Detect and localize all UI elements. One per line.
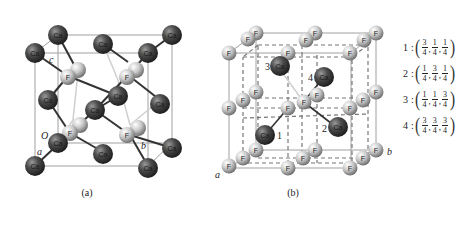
svg-text:F: F [361, 155, 365, 162]
svg-text:Ca: Ca [168, 32, 177, 39]
svg-text:Ca: Ca [54, 32, 63, 39]
svg-text:Ca: Ca [144, 50, 153, 57]
svg-text:F: F [302, 99, 306, 106]
svg-text:Ca: Ca [99, 151, 108, 158]
svg-text:Ca: Ca [91, 107, 100, 114]
f-atom: F [343, 46, 358, 61]
svg-text:Ca: Ca [44, 97, 53, 104]
frac-y: 34 [432, 64, 438, 83]
frac-z: 34 [442, 90, 448, 109]
svg-text:F: F [254, 147, 258, 154]
svg-text:F: F [286, 165, 290, 172]
frac-y: 14 [432, 90, 438, 109]
svg-text:F: F [241, 97, 245, 104]
svg-text:F: F [374, 147, 378, 154]
svg-text:F: F [66, 74, 70, 81]
svg-text:F: F [68, 130, 72, 137]
frac-z: 14 [442, 64, 448, 83]
coord-index: 3 [394, 94, 408, 105]
caption-b: (b) [287, 187, 299, 199]
f-atom: F [356, 93, 371, 108]
f-atom: F [236, 151, 251, 166]
svg-text:F: F [125, 132, 129, 139]
f-atom: F [297, 95, 312, 110]
f-atom: F [281, 101, 296, 116]
coord-sep: : [411, 42, 414, 53]
svg-text:Ca: Ca [156, 101, 165, 108]
coordinate-row-4: 4 : ( 34 , 34 , 34 ) [394, 112, 470, 138]
coordinates-legend: 1 : ( 34 , 14 , 14 ) 2 : ( 14 , 34 , 14 … [394, 34, 470, 138]
panel-b: F F F F F F F F F F F F F F F F F F F F … [215, 26, 392, 200]
ca-atom-1: Ca [255, 125, 275, 145]
ca-index-1: 1 [277, 130, 282, 141]
f-atom: F [356, 151, 371, 166]
ca-atom: Ca [25, 156, 45, 176]
svg-text:Ca: Ca [54, 140, 63, 147]
ca-index-4: 4 [308, 72, 313, 83]
svg-text:F: F [313, 147, 317, 154]
f-atom: F [310, 88, 325, 103]
ca-atom-3: Ca [270, 56, 290, 76]
ca-atom: Ca [25, 43, 45, 63]
f-atom: F [343, 101, 358, 116]
svg-text:F: F [227, 163, 231, 170]
svg-text:Ca: Ca [168, 145, 177, 152]
coordinate-row-3: 3 : ( 14 , 14 , 34 ) [394, 86, 470, 112]
svg-text:F: F [348, 165, 352, 172]
svg-text:F: F [286, 105, 290, 112]
ca-atom: Ca [138, 43, 158, 63]
svg-text:F: F [374, 30, 378, 37]
f-atom: F [299, 33, 314, 48]
ca-atom: Ca [85, 100, 105, 120]
coordinate-row-2: 2 : ( 14 , 34 , 14 ) [394, 60, 470, 86]
f-atom: F [343, 161, 358, 176]
f-atom: F [296, 151, 311, 166]
frac-y: 14 [432, 38, 438, 57]
ca-atom: Ca [93, 144, 113, 164]
svg-text:Ca: Ca [144, 165, 153, 172]
panel-a: Ca Ca Ca Ca Ca Ca Ca Ca F F F F Ca Ca Ca… [25, 25, 182, 199]
axis-label-a: a [37, 146, 42, 157]
svg-text:Ca: Ca [31, 50, 40, 57]
f-atom: F [249, 85, 264, 100]
svg-text:F: F [301, 155, 305, 162]
ca-atom-4: Ca [314, 67, 334, 87]
frac-x: 34 [422, 116, 428, 135]
svg-text:F: F [125, 74, 129, 81]
f-atom: F [222, 159, 237, 174]
ca-atom: Ca [38, 90, 58, 110]
svg-text:F: F [361, 97, 365, 104]
f-atom: F [119, 69, 135, 85]
frac-x: 34 [422, 38, 428, 57]
coord-sep: : [411, 94, 414, 105]
svg-text:Ca: Ca [31, 163, 40, 170]
f-atom: F [241, 32, 256, 47]
ca-atom: Ca [48, 133, 68, 153]
f-atom: F [357, 33, 372, 48]
f-atom: F [60, 69, 76, 85]
svg-text:F: F [348, 50, 352, 57]
svg-text:F: F [246, 36, 250, 43]
coord-index: 1 [394, 42, 408, 53]
axis-label-a-b: a [215, 169, 220, 180]
svg-text:F: F [374, 89, 378, 96]
coord-sep: : [411, 120, 414, 131]
ca-atom: Ca [93, 34, 113, 54]
svg-text:F: F [315, 92, 319, 99]
axis-label-c: c [49, 54, 54, 65]
ca-atom: Ca [48, 25, 68, 45]
svg-text:F: F [254, 89, 258, 96]
f-atom: F [369, 85, 384, 100]
ca-index-2: 2 [322, 123, 327, 134]
svg-text:F: F [227, 105, 231, 112]
coordinate-row-1: 1 : ( 34 , 14 , 14 ) [394, 34, 470, 60]
svg-text:F: F [286, 50, 290, 57]
svg-text:F: F [227, 50, 231, 57]
f-atom: F [369, 143, 384, 158]
ca-atom: Ca [162, 25, 182, 45]
svg-text:Ca: Ca [320, 74, 329, 81]
axis-label-b-b: b [387, 146, 392, 157]
caption-a: (a) [81, 187, 92, 199]
axis-label-origin: O [41, 130, 48, 141]
ca-atom: Ca [108, 86, 128, 106]
